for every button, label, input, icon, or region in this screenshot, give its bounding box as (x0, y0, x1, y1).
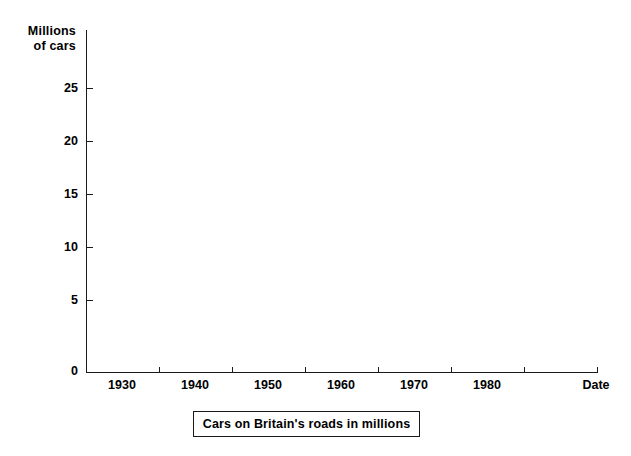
y-axis-tick-label: 15 (42, 188, 78, 201)
chart-caption-box: Cars on Britain's roads in millions (193, 411, 420, 437)
y-axis-title-line-2: of cars (0, 39, 76, 54)
x-axis-tick-label: 1960 (304, 379, 378, 392)
chart-figure: Millions of cars 25 20 15 10 5 0 1930 19… (0, 0, 631, 456)
y-axis-tick-label: 20 (42, 135, 78, 148)
plot-area (87, 30, 598, 372)
y-axis-tick (87, 141, 93, 142)
x-axis-tick (232, 367, 233, 374)
chart-caption-text: Cars on Britain's roads in millions (203, 417, 411, 431)
y-axis-tick-label: 0 (42, 365, 78, 378)
x-axis-tick (524, 367, 525, 374)
x-axis-tick-label: 1940 (158, 379, 232, 392)
y-axis-tick-label: 5 (42, 294, 78, 307)
y-axis-tick-label: 10 (42, 241, 78, 254)
y-axis-tick (87, 247, 93, 248)
y-axis-title-line-1: Millions (0, 24, 76, 39)
x-axis-line (86, 372, 598, 373)
y-axis-title: Millions of cars (0, 24, 76, 54)
x-axis-tick (597, 367, 598, 374)
x-axis-tick-label: 1980 (450, 379, 524, 392)
y-axis-tick (87, 194, 93, 195)
x-axis-tick-label: 1970 (377, 379, 451, 392)
y-axis-tick-label: 25 (42, 82, 78, 95)
y-axis-tick (87, 88, 93, 89)
x-axis-tick (451, 367, 452, 374)
x-axis-tick (159, 367, 160, 374)
y-axis-tick (87, 300, 93, 301)
x-axis-tick (305, 367, 306, 374)
x-axis-tick-label: 1950 (231, 379, 305, 392)
x-axis-tick-label: 1930 (85, 379, 159, 392)
x-axis-tick (378, 367, 379, 374)
x-axis-title: Date (561, 379, 631, 392)
